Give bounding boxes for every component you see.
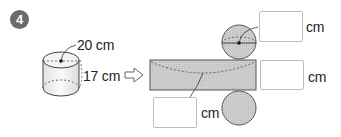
rectangle-length-answer-box[interactable] bbox=[153, 97, 197, 128]
hollow-right-arrow-icon bbox=[125, 68, 143, 82]
net-bottom-circle bbox=[222, 91, 256, 125]
net-top-circle bbox=[222, 25, 258, 59]
rectangle-height-answer-box[interactable] bbox=[260, 60, 304, 90]
top-circle-answer-box[interactable] bbox=[259, 11, 303, 42]
rectangle-length-unit: cm bbox=[201, 106, 219, 120]
diameter-label: 20 cm bbox=[77, 38, 114, 52]
height-label: 17 cm bbox=[83, 69, 120, 83]
top-circle-unit: cm bbox=[306, 20, 324, 34]
rectangle-height-unit: cm bbox=[308, 70, 326, 84]
